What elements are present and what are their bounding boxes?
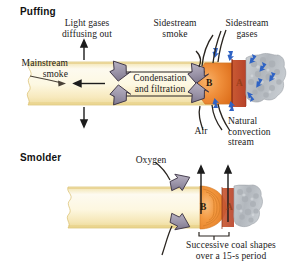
label-natural-convection-stream: Natural convection stream xyxy=(228,116,288,148)
label-oxygen: Oxygen xyxy=(123,155,179,166)
smolder-ash xyxy=(234,185,263,227)
zone-label-b-smolder: B xyxy=(200,202,206,212)
zone-label-a-smolder: A xyxy=(226,202,233,212)
label-condensation-filtration: Condensation and filtration xyxy=(118,73,202,94)
zone-label-a-puffing: A xyxy=(236,78,243,88)
zone-label-b-puffing: B xyxy=(206,78,212,88)
diffusion-arrows xyxy=(74,40,105,127)
label-successive-coal-shapes: Successive coal shapes over a 15-s perio… xyxy=(168,240,294,261)
section-title-puffing: Puffing xyxy=(20,6,56,17)
label-light-gases: Light gases diffusing out xyxy=(55,18,119,39)
label-mainstream-smoke: Mainstream smoke xyxy=(2,58,68,79)
section-title-smolder: Smolder xyxy=(20,152,61,163)
label-air: Air xyxy=(190,126,212,137)
label-sidestream-gases: Sidestream gases xyxy=(216,18,278,39)
label-sidestream-smoke: Sidestream smoke xyxy=(144,18,206,39)
successive-coal-bracket xyxy=(199,232,229,240)
figure-cigarette-combustion: Puffing Smolder Light gases diffusing ou… xyxy=(0,0,297,263)
